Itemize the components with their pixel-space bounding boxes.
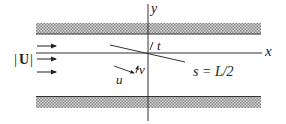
plate-end-label: s = L/2 [193, 65, 234, 79]
velocity-bar-left: | [14, 52, 17, 67]
u-component-label: u [116, 73, 123, 86]
velocity-bar-right: | [30, 52, 33, 67]
y-axis-label: y [151, 2, 157, 16]
v-component-label: v [139, 63, 145, 76]
inflow-arrows [37, 46, 56, 72]
tangent-label: t [157, 39, 161, 52]
x-axis-label: x [265, 44, 272, 59]
tangent-marker [150, 42, 153, 50]
velocity-magnitude-label: U [19, 53, 29, 67]
